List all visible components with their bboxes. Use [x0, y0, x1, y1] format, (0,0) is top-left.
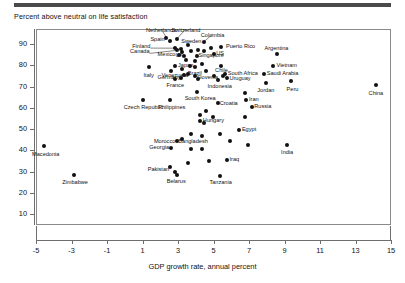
x-tick-mark	[391, 240, 392, 244]
point-label: Mexico	[158, 52, 176, 58]
plot-area: NetherlandsSwitzerlandColombiaSpainSwede…	[36, 29, 391, 225]
x-tick-mark	[107, 240, 108, 244]
point-label: Puerto Rico	[226, 44, 255, 50]
x-tick-label: 11	[309, 247, 331, 254]
x-tick-mark	[249, 240, 250, 244]
y-tick-mark	[30, 65, 34, 66]
x-tick-mark	[320, 240, 321, 244]
point-label: China	[369, 91, 384, 97]
scatter-point[interactable]	[195, 90, 199, 94]
x-tick-mark	[143, 240, 144, 244]
x-tick-label: 5	[203, 247, 225, 254]
x-tick-label: 1	[132, 247, 154, 254]
x-tick-mark	[285, 240, 286, 244]
y-tick-label: 60	[9, 104, 27, 111]
point-label: India	[281, 150, 293, 156]
x-tick-label: 15	[380, 247, 402, 254]
scatter-point[interactable]	[225, 158, 229, 162]
point-label: US	[216, 51, 224, 57]
scatter-point-unlabeled[interactable]	[204, 109, 208, 113]
point-label: Egypt	[242, 127, 256, 133]
y-tick-label: 10	[9, 210, 27, 217]
point-label: Uruguay	[229, 76, 250, 82]
scatter-point-unlabeled[interactable]	[186, 161, 190, 165]
scatter-point-unlabeled[interactable]	[209, 46, 213, 50]
point-label: Georgia	[149, 146, 169, 152]
y-tick-label: 40	[9, 146, 27, 153]
x-axis-title: GDP growth rate, annual percent	[0, 262, 405, 271]
x-tick-label: 7	[238, 247, 260, 254]
x-tick-label: -3	[61, 247, 83, 254]
chart-title: Percent above neutral on life satisfacti…	[14, 12, 148, 21]
scatter-point-unlabeled[interactable]	[184, 58, 188, 62]
point-label: Argentina	[265, 46, 289, 52]
point-label: Chile	[215, 68, 228, 74]
y-tick-label: 80	[9, 61, 27, 68]
scatter-point-unlabeled[interactable]	[193, 59, 197, 63]
point-label: Macedonia	[32, 152, 59, 158]
point-label: UK	[176, 53, 184, 59]
point-label: Belarus	[167, 179, 186, 185]
y-axis-line	[34, 29, 35, 225]
point-label: Czech Republic	[124, 105, 163, 111]
scatter-point[interactable]	[168, 39, 172, 43]
x-tick-label: -1	[96, 247, 118, 254]
y-tick-label: 20	[9, 189, 27, 196]
point-label: Pakistan	[148, 167, 169, 173]
x-tick-label: 9	[274, 247, 296, 254]
scatter-point-unlabeled[interactable]	[243, 91, 247, 95]
point-label: Spain	[150, 37, 164, 43]
x-axis-right-cap	[390, 226, 391, 241]
y-tick-mark	[30, 44, 34, 45]
scatter-point[interactable]	[202, 40, 206, 44]
y-tick-mark	[30, 193, 34, 194]
scatter-point[interactable]	[275, 52, 279, 56]
scatter-point[interactable]	[175, 37, 179, 41]
point-label: Indonesia	[208, 84, 232, 90]
y-tick-mark	[30, 87, 34, 88]
x-tick-label: 13	[345, 247, 367, 254]
x-tick-label: 3	[167, 247, 189, 254]
point-label: Jordan	[257, 88, 274, 94]
header-divider	[14, 3, 391, 7]
y-tick-label: 70	[9, 83, 27, 90]
y-tick-mark	[30, 214, 34, 215]
scatter-point[interactable]	[250, 105, 254, 109]
y-tick-mark	[30, 172, 34, 173]
point-label: Japan	[178, 63, 193, 69]
scatter-point[interactable]	[262, 72, 266, 76]
point-label: Switzerland	[172, 28, 201, 34]
scatter-point-unlabeled[interactable]	[204, 69, 208, 73]
scatter-point[interactable]	[289, 79, 293, 83]
x-tick-mark	[36, 240, 37, 244]
point-label: Croatia	[220, 101, 238, 107]
x-tick-mark	[72, 240, 73, 244]
x-tick-mark	[178, 240, 179, 244]
point-label: Philippines	[158, 105, 185, 111]
x-tick-mark	[356, 240, 357, 244]
point-label: Vietnam	[277, 63, 297, 69]
y-tick-mark	[30, 129, 34, 130]
point-label: Venezuela	[162, 73, 188, 79]
point-label: Saudi Arabia	[267, 71, 299, 77]
y-tick-label: 50	[9, 125, 27, 132]
point-label: Zimbabwe	[62, 180, 88, 186]
x-tick-mark	[214, 240, 215, 244]
point-label: Bangladesh	[178, 139, 208, 145]
point-label: Iraq	[229, 157, 239, 163]
y-tick-label: 30	[9, 168, 27, 175]
point-label: Canada	[130, 50, 150, 56]
point-label: Tanzania	[209, 180, 231, 186]
x-tick-label: -5	[25, 247, 47, 254]
point-label: France	[167, 83, 184, 89]
point-label: South Korea	[185, 96, 216, 102]
scatter-point[interactable]	[225, 76, 229, 80]
point-label: Peru	[287, 87, 299, 93]
y-tick-label: 90	[9, 40, 27, 47]
x-axis-left-cap	[36, 226, 37, 241]
point-label: Slovenia	[197, 75, 218, 81]
point-label: Hungary	[203, 118, 224, 124]
chart-screenshot: Percent above neutral on life satisfacti…	[0, 0, 405, 283]
point-label: Sweden	[181, 39, 201, 45]
scatter-point[interactable]	[218, 174, 222, 178]
